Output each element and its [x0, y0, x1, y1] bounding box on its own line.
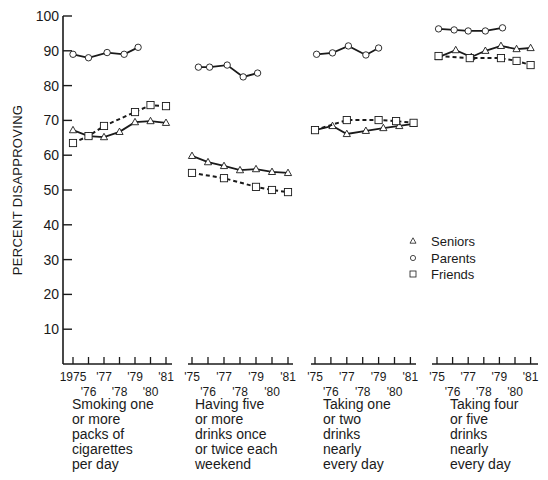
series-parents — [195, 62, 261, 80]
circle-marker — [363, 52, 369, 58]
x-tick-label: '81 — [280, 370, 296, 384]
triangle-marker — [452, 46, 459, 52]
y-tick-label: 90 — [43, 43, 59, 59]
series-seniors — [188, 152, 291, 175]
square-marker — [220, 175, 227, 182]
square-marker — [162, 103, 169, 110]
y-axis-label: PERCENT DISAPPROVING — [10, 105, 25, 275]
x-tick-label: '79 — [492, 370, 508, 384]
square-marker — [147, 101, 154, 108]
panel-4: '75'77'79'81'76'78'80 — [429, 25, 539, 399]
square-marker — [466, 55, 473, 62]
circle-marker — [121, 51, 127, 57]
circle-marker — [104, 49, 110, 55]
circle-marker — [195, 64, 201, 70]
panel-3: '75'77'79'81'76'78'80 — [307, 43, 418, 399]
circle-marker — [465, 28, 471, 34]
circle-marker — [254, 70, 260, 76]
y-tick-label: 80 — [43, 78, 59, 94]
x-tick-label: '81 — [403, 370, 419, 384]
chart-panels: 1975'77'79'81'76'78'80'75'77'79'81'76'78… — [60, 25, 539, 399]
circle-marker — [135, 44, 141, 50]
series-friends — [435, 52, 534, 68]
legend-item-friends: Friends — [410, 267, 475, 282]
circle-marker — [482, 28, 488, 34]
square-marker — [69, 139, 76, 146]
circle-marker — [85, 55, 91, 61]
circle-marker — [206, 64, 212, 70]
x-tick-label: 1975 — [60, 370, 87, 384]
panel-caption: Having five or more drinks once or twice… — [195, 397, 277, 472]
square-marker — [513, 57, 520, 64]
circle-marker — [329, 50, 335, 56]
panel-caption: Smoking one or more packs of cigarettes … — [72, 397, 154, 472]
square-marker — [311, 127, 318, 134]
circle-marker — [224, 62, 230, 68]
circle-marker — [70, 51, 76, 57]
square-marker — [375, 116, 382, 123]
square-marker — [268, 186, 275, 193]
x-tick-label: '79 — [371, 370, 387, 384]
circle-marker — [435, 26, 441, 32]
y-axis: 102030405060708090100 — [36, 8, 72, 364]
triangle-marker — [188, 152, 195, 158]
panel-1: 1975'77'79'81'76'78'80 — [60, 44, 174, 399]
x-tick-label: '79 — [127, 370, 143, 384]
x-tick-label: '81 — [523, 370, 539, 384]
x-tick-label: '79 — [248, 370, 264, 384]
x-tick-label: '77 — [460, 370, 476, 384]
legend-label: Friends — [431, 267, 475, 282]
x-tick-label: '75 — [429, 370, 445, 384]
circle-marker — [499, 25, 505, 31]
y-tick-label: 40 — [43, 217, 59, 233]
square-marker — [131, 108, 138, 115]
circle-marker — [240, 74, 246, 80]
legend-label: Parents — [431, 251, 476, 266]
x-tick-label: '77 — [339, 370, 355, 384]
y-tick-label: 30 — [43, 252, 59, 268]
square-marker — [527, 61, 534, 68]
x-tick-label: '81 — [158, 370, 174, 384]
series-parents — [70, 44, 142, 61]
square-marker — [497, 55, 504, 62]
panel-caption: Taking one or two drinks nearly every da… — [323, 397, 391, 472]
x-tick-label: '75 — [184, 370, 200, 384]
y-tick-label: 20 — [43, 286, 59, 302]
circle-marker — [375, 45, 381, 51]
legend: SeniorsParentsFriends — [410, 234, 476, 282]
square-marker — [410, 119, 417, 126]
y-tick-label: 100 — [36, 8, 60, 24]
x-tick-label: '77 — [96, 370, 112, 384]
series-parents — [435, 25, 505, 35]
y-tick-label: 10 — [43, 321, 59, 337]
panel-caption: Taking four or five drinks nearly every … — [450, 397, 518, 472]
series-seniors — [69, 117, 169, 139]
y-tick-label: 50 — [43, 182, 59, 198]
triangle-marker — [69, 126, 76, 132]
triangle-marker — [497, 42, 504, 48]
series-seniors — [311, 120, 417, 136]
square-marker — [85, 132, 92, 139]
x-tick-label: '77 — [216, 370, 232, 384]
square-marker — [188, 169, 195, 176]
legend-item-seniors: Seniors — [410, 234, 476, 249]
y-tick-label: 60 — [43, 147, 59, 163]
circle-marker — [451, 27, 457, 33]
panel-2: '75'77'79'81'76'78'80 — [184, 62, 296, 399]
circle-marker — [313, 51, 319, 57]
circle-marker — [345, 43, 351, 49]
square-marker — [435, 52, 442, 59]
square-marker — [392, 117, 399, 124]
y-tick-label: 70 — [43, 112, 59, 128]
legend-item-parents: Parents — [410, 251, 476, 266]
square-marker — [343, 116, 350, 123]
legend-label: Seniors — [431, 234, 476, 249]
series-friends — [188, 169, 291, 195]
square-marker — [252, 183, 259, 190]
x-tick-label: '75 — [307, 370, 323, 384]
series-parents — [313, 43, 381, 58]
square-marker — [100, 122, 107, 129]
square-marker — [284, 188, 291, 195]
